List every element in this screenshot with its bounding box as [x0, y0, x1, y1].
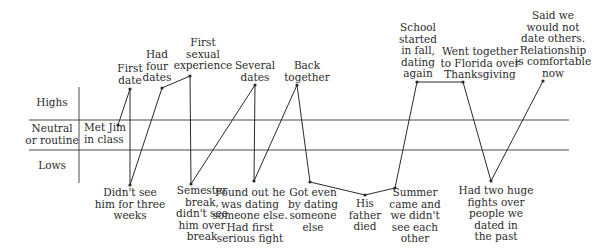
annotation-line: Found out he — [212, 187, 287, 199]
annotation-line: died — [349, 221, 381, 233]
timeline-polyline — [118, 76, 543, 195]
timeline-point — [415, 80, 418, 83]
annotation-met-jim: Met Jimin class — [84, 122, 126, 145]
annotation-line: date — [117, 75, 142, 87]
annotation-line: weeks — [95, 210, 165, 222]
annotation-line: serious fight — [212, 233, 287, 245]
annotation-line: Said we — [515, 10, 591, 22]
annotation-line: Had — [143, 49, 172, 61]
annotation-father-died: Hisfatherdied — [349, 198, 381, 233]
annotation-line: School — [399, 22, 437, 34]
annotation-line: dates — [235, 72, 275, 84]
annotation-line: Didn't see — [95, 187, 165, 199]
annotation-line: Several — [235, 60, 275, 72]
annotation-line: Back — [284, 60, 330, 72]
relationship-timeline-diagram: Highs Neutral or routine Lows Met Jimin … — [0, 0, 611, 252]
annotation-line: Summer — [389, 187, 440, 199]
annotation-first-date: Firstdate — [117, 63, 142, 86]
timeline-point — [253, 83, 256, 86]
annotation-got-even: Got evenby datingsomeoneelse — [288, 187, 338, 233]
annotation-line: First — [174, 37, 233, 49]
band-label-neutral: Neutral or routine — [25, 123, 78, 146]
annotation-line: other — [389, 233, 440, 245]
annotation-two-fights: Had two hugefights overpeople wedated in… — [459, 185, 534, 243]
annotation-said-we: Said wewould notdate others.Relationship… — [515, 10, 591, 80]
annotation-summer: Summercame andwe didn'tsee eachother — [389, 187, 440, 245]
annotation-line: Got even — [288, 187, 338, 199]
annotation-line: together — [284, 72, 330, 84]
annotation-florida: Went togetherto Florida overThanksgiving — [440, 46, 519, 81]
timeline-point — [489, 179, 492, 182]
annotation-line: His — [349, 198, 381, 210]
annotation-line: else — [288, 222, 338, 234]
annotation-line: again — [399, 68, 437, 80]
band-label-neutral-line2: or routine — [25, 135, 78, 147]
timeline-point — [252, 179, 255, 182]
annotation-four-dates: Hadfourdates — [143, 49, 172, 84]
annotation-line: in class — [84, 134, 126, 146]
annotation-school-started: Schoolstartedin fall,datingagain — [399, 22, 437, 80]
band-label-highs: Highs — [36, 97, 67, 109]
timeline-point — [188, 74, 191, 77]
timeline-point — [295, 83, 298, 86]
annotation-line: Had two huge — [459, 185, 534, 197]
annotation-line: experience — [174, 60, 233, 72]
timeline-point — [541, 79, 544, 82]
band-label-lows: Lows — [38, 160, 66, 172]
annotation-back-together: Backtogether — [284, 60, 330, 83]
timeline-point — [128, 87, 131, 90]
timeline-point — [160, 86, 163, 89]
timeline-point — [461, 80, 464, 83]
band-label-neutral-line1: Neutral — [25, 123, 78, 135]
annotation-several-dates: Severaldates — [235, 60, 275, 83]
annotation-found-out: Found out hewas datingsomeone else.Had f… — [212, 187, 287, 245]
annotation-line: Thanksgiving — [440, 69, 519, 81]
annotation-line: now — [515, 68, 591, 80]
timeline-point — [308, 180, 311, 183]
annotation-line: Went together — [440, 46, 519, 58]
annotation-line: Met Jim — [84, 122, 126, 134]
annotation-didnt-see: Didn't seehim for threeweeks — [95, 187, 165, 222]
annotation-line: dates — [143, 72, 172, 84]
annotation-line: First — [117, 63, 142, 75]
timeline-points — [116, 74, 544, 196]
annotation-line: the past — [459, 231, 534, 243]
annotation-first-sexual: Firstsexualexperience — [174, 37, 233, 72]
